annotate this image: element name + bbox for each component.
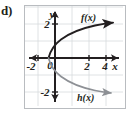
curve-label-f: f(x)	[81, 12, 96, 24]
curve-label-h: h(x)	[77, 92, 94, 104]
x-tick-label-2: 2	[83, 60, 90, 72]
x-tick-label-4: 4	[101, 60, 108, 72]
y-tick-label-neg2: -2	[40, 86, 50, 98]
part-label: d)	[1, 3, 12, 19]
graph-panel: -2 2 4 x 2 -2 y 0 f(x) h(x)	[24, 5, 126, 109]
curve-f	[49, 23, 114, 58]
y-axis-letter: y	[48, 8, 55, 20]
x-axis-letter: x	[111, 60, 118, 72]
x-tick-label-neg2: -2	[26, 60, 36, 72]
figure-root: d)	[0, 0, 132, 113]
coordinate-plane-svg: -2 2 4 x 2 -2 y 0 f(x) h(x)	[25, 6, 123, 106]
